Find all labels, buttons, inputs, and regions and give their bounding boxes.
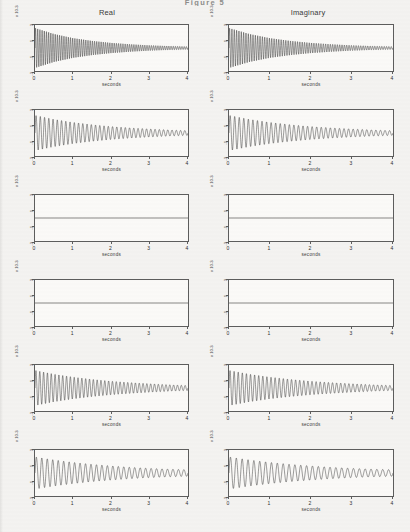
- x-axis-label: seconds: [228, 337, 394, 342]
- x-axis-ticks: 01234: [34, 243, 189, 252]
- x-tick-label: 1: [67, 75, 77, 81]
- x-tick-label: 1: [67, 500, 77, 506]
- x-tick-mark: [34, 72, 35, 74]
- x-tick-label: 3: [144, 330, 154, 336]
- plot-axes-box: [228, 449, 394, 497]
- x-tick-mark: [149, 242, 150, 244]
- y-axis-exponent-label: x 10-3: [14, 430, 19, 442]
- x-tick-mark: [351, 242, 352, 244]
- x-axis-label: seconds: [34, 422, 189, 427]
- y-axis-ticks: 31-1-3: [0, 449, 34, 497]
- waveform-trace: [229, 450, 393, 496]
- x-tick-mark: [34, 242, 35, 244]
- x-tick-label: 2: [106, 75, 116, 81]
- plot-real-row3: x 10-331-1-301234seconds: [0, 190, 200, 275]
- y-axis-ticks: 31-1-3: [198, 364, 228, 412]
- x-tick-label: 2: [106, 160, 116, 166]
- x-tick-label: 4: [182, 245, 192, 251]
- y-axis-ticks: 31-1-3: [0, 364, 34, 412]
- x-axis-ticks: 01234: [228, 328, 394, 337]
- plot-row-2: x 10-331-1-301234secondsx 10-331-1-30123…: [0, 105, 410, 190]
- x-tick-mark: [392, 242, 393, 244]
- waveform-trace: [229, 195, 393, 241]
- y-axis-ticks: 31-1-3: [198, 24, 228, 72]
- y-axis-ticks: 31-1-3: [198, 449, 228, 497]
- plot-axes-box: [34, 109, 189, 157]
- x-tick-mark: [149, 157, 150, 159]
- x-tick-label: 0: [29, 75, 39, 81]
- x-tick-mark: [72, 412, 73, 414]
- x-tick-label: 2: [106, 500, 116, 506]
- waveform-trace: [229, 365, 393, 411]
- waveform-trace: [35, 450, 188, 496]
- x-axis-label: seconds: [34, 167, 189, 172]
- plot-real-row1: x 10-331-1-301234seconds: [0, 20, 200, 105]
- x-axis-ticks: 01234: [34, 413, 189, 422]
- x-tick-mark: [149, 327, 150, 329]
- x-axis-ticks: 01234: [34, 498, 189, 507]
- y-axis-exponent-label: x 10-3: [14, 5, 19, 17]
- waveform-trace: [229, 280, 393, 326]
- x-tick-mark: [111, 497, 112, 499]
- x-tick-label: 0: [29, 160, 39, 166]
- x-tick-mark: [392, 497, 393, 499]
- x-tick-label: 4: [182, 75, 192, 81]
- waveform-trace: [35, 365, 188, 411]
- x-tick-mark: [269, 242, 270, 244]
- plot-real-row6: x 10-331-1-301234seconds: [0, 445, 200, 530]
- x-tick-mark: [351, 327, 352, 329]
- column-header-imaginary: Imaginary: [258, 8, 358, 17]
- x-tick-label: 2: [305, 415, 315, 421]
- x-tick-label: 4: [387, 245, 397, 251]
- y-axis-exponent-label: x 10-3: [14, 260, 19, 272]
- y-axis-ticks: 31-1-3: [198, 109, 228, 157]
- x-axis-label: seconds: [228, 422, 394, 427]
- x-tick-label: 2: [305, 75, 315, 81]
- x-tick-mark: [351, 72, 352, 74]
- x-tick-mark: [228, 327, 229, 329]
- plot-axes-box: [34, 279, 189, 327]
- plot-row-4: x 10-331-1-301234secondsx 10-331-1-30123…: [0, 275, 410, 360]
- x-tick-label: 1: [264, 245, 274, 251]
- x-tick-label: 3: [144, 75, 154, 81]
- plot-imaginary-row1: x 10-331-1-301234seconds: [198, 20, 410, 105]
- x-tick-label: 3: [346, 500, 356, 506]
- x-tick-label: 3: [346, 75, 356, 81]
- x-tick-mark: [392, 157, 393, 159]
- x-tick-label: 3: [346, 415, 356, 421]
- x-tick-mark: [269, 412, 270, 414]
- x-tick-mark: [111, 72, 112, 74]
- x-axis-ticks: 01234: [228, 498, 394, 507]
- x-tick-mark: [269, 327, 270, 329]
- plot-imaginary-row5: x 10-331-1-301234seconds: [198, 360, 410, 445]
- x-tick-mark: [351, 412, 352, 414]
- x-tick-label: 2: [106, 330, 116, 336]
- x-tick-label: 4: [387, 500, 397, 506]
- figure-title: Figure 5: [0, 0, 410, 6]
- x-tick-mark: [34, 497, 35, 499]
- x-tick-mark: [228, 242, 229, 244]
- x-tick-label: 1: [67, 415, 77, 421]
- x-tick-label: 3: [346, 330, 356, 336]
- x-tick-mark: [228, 72, 229, 74]
- plot-real-row5: x 10-331-1-301234seconds: [0, 360, 200, 445]
- x-tick-mark: [269, 157, 270, 159]
- plot-axes-box: [228, 24, 394, 72]
- plot-axes-box: [228, 279, 394, 327]
- x-tick-label: 3: [144, 500, 154, 506]
- x-axis-label: seconds: [228, 82, 394, 87]
- x-tick-mark: [351, 157, 352, 159]
- x-tick-mark: [187, 157, 188, 159]
- x-tick-label: 4: [387, 330, 397, 336]
- x-tick-label: 0: [223, 500, 233, 506]
- x-tick-label: 4: [387, 415, 397, 421]
- x-tick-mark: [149, 72, 150, 74]
- waveform-trace: [35, 25, 188, 71]
- waveform-trace: [35, 280, 188, 326]
- x-axis-label: seconds: [34, 337, 189, 342]
- plot-axes-box: [34, 364, 189, 412]
- x-tick-label: 3: [144, 415, 154, 421]
- x-axis-label: seconds: [34, 252, 189, 257]
- x-tick-mark: [111, 242, 112, 244]
- x-tick-label: 1: [264, 330, 274, 336]
